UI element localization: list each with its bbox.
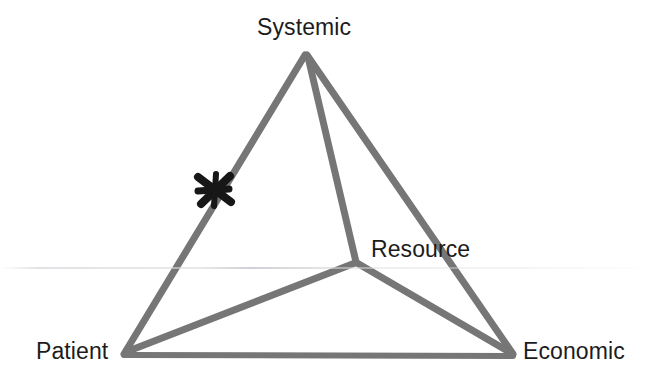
x-marker	[198, 174, 231, 206]
diagram-figure: Systemic Resource Patient Economic	[0, 0, 658, 384]
tetrahedron-diagram	[0, 0, 658, 384]
vertex-label-resource: Resource	[371, 238, 470, 261]
vertex-label-patient: Patient	[36, 340, 108, 363]
edge-economic-resource	[357, 263, 511, 353]
vertex-label-economic: Economic	[523, 340, 625, 363]
edge-patient-economic	[124, 355, 513, 356]
edge-patient-resource	[126, 263, 355, 352]
inner-edges	[126, 57, 511, 353]
vertex-label-systemic: Systemic	[257, 16, 351, 39]
edge-systemic-economic	[307, 55, 513, 354]
